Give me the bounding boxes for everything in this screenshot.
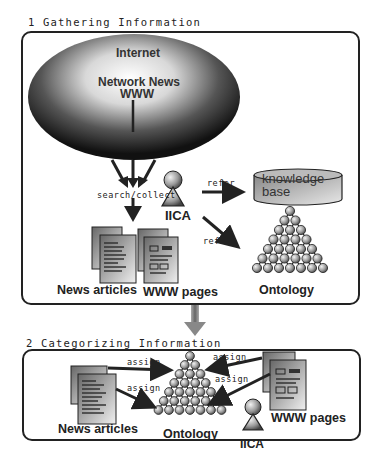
ontology-node [285, 206, 294, 215]
ontology-node [269, 235, 278, 244]
www-pages-label: WWW pages [143, 285, 218, 299]
knowledge-base-label-line2: base [262, 184, 290, 199]
ontology-node [313, 254, 322, 263]
transition-arrow [184, 305, 206, 336]
iica-label: IICA [165, 208, 191, 223]
assign-label-2: assign [127, 383, 161, 393]
refer-kb-label: refer [207, 178, 235, 188]
www-pages-icon [138, 229, 178, 283]
ontology-node [285, 263, 294, 272]
internet-label: Internet [116, 46, 160, 60]
ontology-node [285, 225, 294, 234]
ontology-node [296, 244, 305, 253]
ontology-node [307, 244, 316, 253]
ontology-node [302, 235, 311, 244]
ontology-node [302, 254, 311, 263]
ontology-node [296, 263, 305, 272]
ontology-node [263, 244, 272, 253]
ontology-node [258, 254, 267, 263]
assign-label-1: assign [127, 357, 161, 367]
ontology-node [291, 235, 300, 244]
ontology-node [307, 263, 316, 272]
ontology-node [274, 225, 283, 234]
www-label: WWW [120, 87, 154, 101]
ontology-node [280, 235, 289, 244]
search-collect-label: search/collect [97, 190, 176, 200]
collect-arrows [112, 160, 155, 188]
news-articles-label-2: News articles [58, 422, 138, 436]
ontology-node [291, 254, 300, 263]
ontology-node [280, 254, 289, 263]
ontology-icon [252, 206, 327, 272]
ontology-label-2: Ontology [163, 427, 218, 441]
ontology-label: Ontology [259, 283, 314, 297]
news-articles-icon [92, 227, 136, 283]
assign-label-4: assign [215, 374, 249, 384]
ontology-node [263, 263, 272, 272]
ontology-node [274, 263, 283, 272]
assign-label-3: assign [213, 352, 247, 362]
ontology-node [252, 263, 261, 272]
ontology-node [280, 216, 289, 225]
ontology-node [274, 244, 283, 253]
news-articles-label: News articles [57, 283, 137, 297]
ontology-node [318, 263, 327, 272]
www-pages-label-2: WWW pages [271, 411, 346, 425]
iica-label-2: IICA [240, 437, 264, 451]
search-collect-arrow [124, 198, 142, 222]
refer-ontology-label: refer [203, 236, 231, 246]
ontology-node [296, 225, 305, 234]
section-2-title: 2 Categorizing Information [26, 337, 222, 349]
ontology-node [285, 244, 294, 253]
ontology-node [269, 254, 278, 263]
iica-agent-icon [162, 171, 184, 206]
ontology-node [291, 216, 300, 225]
